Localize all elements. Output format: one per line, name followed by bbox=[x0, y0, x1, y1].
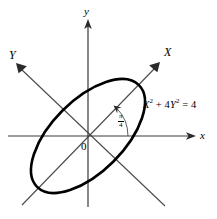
ellipse-rotated-axes-figure: y x X Y 0 π 4 X2 + 4Y2 = 4 bbox=[0, 0, 217, 219]
rotated-y-axis-arrowhead bbox=[16, 63, 27, 73]
ellipse-equation-label: X2 + 4Y2 = 4 bbox=[143, 98, 196, 110]
rotated-x-axis-arrowhead bbox=[149, 62, 160, 72]
angle-numerator: π bbox=[118, 113, 124, 120]
angle-label-pi-over-4: π 4 bbox=[118, 113, 124, 130]
equation-rhs: 4 bbox=[191, 99, 196, 110]
rotated-y-axis-label: Y bbox=[9, 49, 16, 61]
rotated-x-axis-label: X bbox=[164, 46, 171, 58]
equation-plus: + bbox=[153, 99, 164, 110]
origin-label: 0 bbox=[81, 141, 87, 152]
y-axis-label: y bbox=[84, 6, 89, 17]
x-axis-label: x bbox=[200, 130, 205, 141]
equation-equals: = bbox=[179, 99, 190, 110]
angle-denominator: 4 bbox=[118, 122, 124, 129]
